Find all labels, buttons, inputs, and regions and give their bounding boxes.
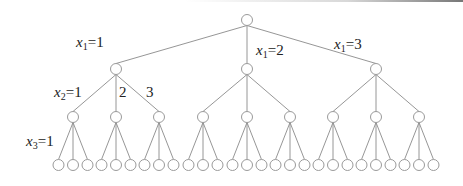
tree-node: [356, 160, 367, 171]
tree-edge: [376, 75, 419, 112]
tree-edge: [290, 123, 305, 160]
tree-node: [328, 160, 339, 171]
label-x2-2: 2: [119, 84, 127, 101]
tree-edge: [319, 123, 334, 160]
tree-node: [270, 160, 281, 171]
tree-node: [154, 160, 165, 171]
tree-edge: [116, 123, 131, 160]
tree-node: [125, 160, 136, 171]
tree-edge: [247, 123, 262, 160]
tree-edge: [73, 123, 88, 160]
tree-node: [242, 160, 253, 171]
tree-edge: [189, 123, 204, 160]
tree-node: [371, 160, 382, 171]
tree-node: [111, 64, 122, 75]
tree-node: [68, 160, 79, 171]
tree-node: [154, 112, 165, 123]
tree-node: [414, 112, 425, 123]
tree-node: [328, 112, 339, 123]
tree-node: [285, 160, 296, 171]
tree-edge: [419, 123, 434, 160]
tree-edge: [116, 26, 247, 64]
tree-node: [212, 160, 223, 171]
tree-node: [139, 160, 150, 171]
label-x2-eq-1: x2=1: [54, 84, 82, 102]
tree-node: [68, 112, 79, 123]
tree-edge: [203, 75, 247, 112]
tree-node: [371, 64, 382, 75]
tree-edge: [59, 123, 74, 160]
label-x3-eq-1: x3=1: [26, 133, 54, 151]
tree-edge: [333, 123, 348, 160]
tree-node: [183, 160, 194, 171]
tree-edge: [233, 123, 248, 160]
tree-node: [111, 160, 122, 171]
tree-node: [198, 160, 209, 171]
tree-node: [53, 160, 64, 171]
tree-edge: [362, 123, 377, 160]
tree-node: [198, 112, 209, 123]
label-x1-eq-2: x1=2: [256, 42, 284, 60]
tree-node: [428, 160, 439, 171]
tree-edge: [203, 123, 218, 160]
tree-edge: [102, 123, 117, 160]
tree-node: [342, 160, 353, 171]
label-x2-3: 3: [146, 84, 154, 101]
tree-node: [313, 160, 324, 171]
tree-edge: [376, 123, 391, 160]
tree-node: [111, 112, 122, 123]
tree-edge: [145, 123, 160, 160]
tree-edge: [159, 123, 174, 160]
tree-edge: [405, 123, 420, 160]
label-x1-eq-1: x1=1: [76, 34, 104, 52]
tree-node: [371, 112, 382, 123]
tree-node: [399, 160, 410, 171]
tree-edge: [333, 75, 376, 112]
tree-node: [242, 112, 253, 123]
tree-node: [227, 160, 238, 171]
tree-edge: [276, 123, 291, 160]
label-x1-eq-3: x1=3: [334, 36, 362, 54]
tree-node: [414, 160, 425, 171]
tree-node: [82, 160, 93, 171]
tree-node: [256, 160, 267, 171]
tree-node: [242, 64, 253, 75]
tree-node: [299, 160, 310, 171]
search-tree-diagram: x1=1 x1=2 x1=3 x2=1 2 3 x3=1: [0, 0, 463, 186]
tree-node: [168, 160, 179, 171]
tree-node: [242, 15, 253, 26]
tree-edge: [247, 75, 290, 112]
tree-node: [285, 112, 296, 123]
tree-node: [385, 160, 396, 171]
tree-node: [96, 160, 107, 171]
